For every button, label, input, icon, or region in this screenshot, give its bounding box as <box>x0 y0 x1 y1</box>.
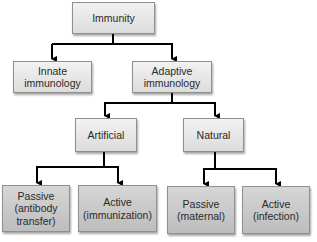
node-passive-maternal: Passive (maternal) <box>167 186 235 234</box>
node-artificial: Artificial <box>75 118 137 152</box>
node-label: Passive (maternal) <box>177 198 225 223</box>
node-label: Active (infection) <box>253 198 299 223</box>
node-label: Natural <box>197 129 231 142</box>
node-label: Immunity <box>92 12 135 25</box>
node-label: Active (immunization) <box>83 196 152 221</box>
node-active-immunization: Active (immunization) <box>78 185 157 232</box>
node-label: Artificial <box>88 129 125 142</box>
node-innate-immunology: Innate immunology <box>13 61 92 93</box>
node-label: Innate immunology <box>24 65 81 90</box>
immunity-diagram: Immunity Innate immunology Adaptive immu… <box>0 0 317 242</box>
node-active-infection: Active (infection) <box>242 186 310 234</box>
node-label: Passive (antibody transfer) <box>14 190 57 228</box>
node-adaptive-immunology: Adaptive immunology <box>132 61 212 93</box>
node-label: Adaptive immunology <box>144 65 201 90</box>
node-immunity: Immunity <box>72 2 155 34</box>
node-passive-antibody-transfer: Passive (antibody transfer) <box>2 185 70 232</box>
node-natural: Natural <box>183 118 244 152</box>
